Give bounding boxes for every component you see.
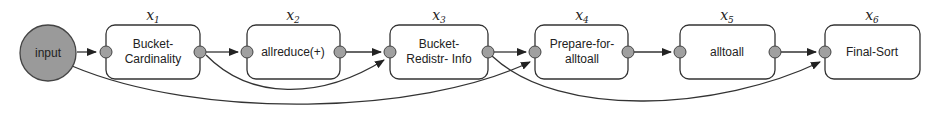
node-x5: x5 alltoall (674, 7, 781, 79)
port-out-icon (482, 46, 494, 58)
svg-text:x6: x6 (865, 7, 879, 25)
port-in-icon (529, 46, 541, 58)
svg-text:x3: x3 (432, 7, 446, 25)
port-out-icon (194, 46, 206, 58)
node-x5-line1: alltoall (710, 45, 744, 59)
port-in-icon (819, 46, 831, 58)
node-x1-line2: Cardinality (125, 52, 182, 66)
node-x1-line1: Bucket- (133, 37, 174, 51)
svg-text:x5: x5 (720, 7, 734, 25)
port-out-icon (622, 46, 634, 58)
svg-text:x2: x2 (286, 7, 300, 25)
port-out-icon (769, 46, 781, 58)
node-x4-line2: alltoall (565, 52, 599, 66)
node-x4: x4 Prepare-for- alltoall (529, 7, 634, 79)
port-out-icon (334, 46, 346, 58)
node-x3-line2: Redistr- Info (406, 52, 472, 66)
svg-text:x4: x4 (575, 7, 589, 25)
input-node: input (20, 25, 76, 81)
port-in-icon (241, 46, 253, 58)
node-x1: x1 Bucket- Cardinality (100, 7, 206, 79)
node-x3-line1: Bucket- (419, 37, 460, 51)
node-x2: x2 allreduce(+) (241, 7, 346, 79)
node-x3: x3 Bucket- Redistr- Info (384, 7, 494, 79)
input-label: input (35, 46, 62, 60)
dataflow-diagram: input x1 Bucket- Cardinality x2 allreduc… (0, 0, 938, 117)
node-x4-line1: Prepare-for- (550, 37, 615, 51)
node-x2-line1: allreduce(+) (261, 45, 325, 59)
port-in-icon (100, 46, 112, 58)
node-x6-line1: Final-Sort (846, 45, 899, 59)
svg-text:x1: x1 (146, 7, 160, 25)
port-in-icon (384, 46, 396, 58)
port-in-icon (674, 46, 686, 58)
node-x6: x6 Final-Sort (819, 7, 920, 79)
